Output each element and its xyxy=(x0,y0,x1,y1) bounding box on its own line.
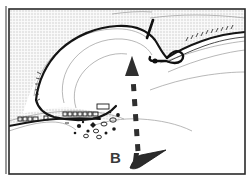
pier-light-dot xyxy=(153,59,158,64)
nautical-chart-svg xyxy=(0,0,246,177)
chart-figure: B xyxy=(0,0,246,177)
